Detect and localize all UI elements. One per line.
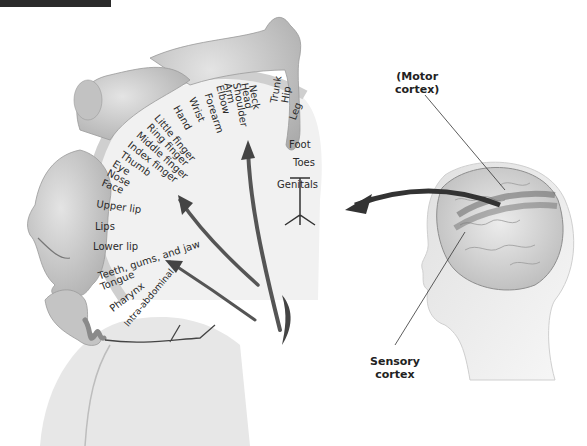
homunculus-pharynx	[85, 320, 104, 338]
label-toes: Toes	[293, 158, 315, 168]
label-foot: Foot	[289, 140, 311, 150]
label-lower-lip: Lower lip	[93, 242, 138, 252]
homunculus-illustration	[0, 0, 587, 446]
label-lips: Lips	[95, 222, 115, 232]
motor-cortex-label: (Motor cortex)	[395, 70, 439, 96]
sensory-cortex-label: Sensory cortex	[370, 355, 420, 381]
motor-cortex-label-line2: cortex)	[395, 83, 439, 96]
label-genitals: Genitals	[277, 180, 318, 190]
sensory-cortex-label-line2: cortex	[370, 368, 420, 381]
motor-cortex-label-line1: (Motor	[395, 70, 439, 83]
sensory-cortex-label-line1: Sensory	[370, 355, 420, 368]
